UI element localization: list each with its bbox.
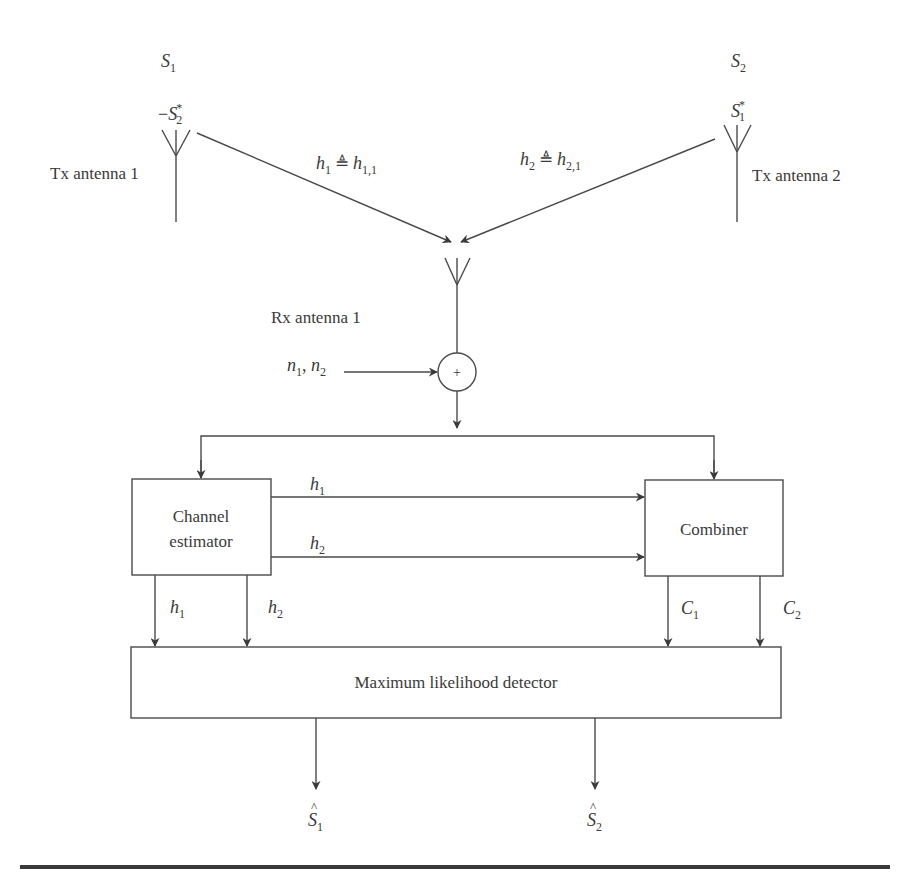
- estimator-to-ml-h2: h2: [247, 575, 283, 646]
- tx2-symbol-t2: S*1: [731, 98, 745, 124]
- svg-text:h2: h2: [268, 597, 283, 621]
- estimator-to-combiner-h1: h1: [271, 474, 644, 498]
- combiner-block: Combiner: [645, 480, 783, 576]
- noise-label: n1, n2: [287, 355, 326, 379]
- combiner-to-ml-c1: C1: [668, 576, 699, 646]
- adder: +: [438, 353, 476, 428]
- combiner-label: Combiner: [680, 520, 748, 539]
- channel-h1-label: h1≜h1,1: [316, 153, 377, 177]
- channel-estimator-label-line2: estimator: [169, 532, 233, 551]
- svg-text:h1: h1: [310, 474, 325, 498]
- antenna-icon: [724, 125, 751, 222]
- tx-antenna-2-label: Tx antenna 2: [752, 166, 841, 185]
- tx1-symbol-t1: S1: [161, 51, 176, 75]
- channel-estimator-block: Channel estimator: [132, 479, 271, 575]
- antenna-icon: [445, 258, 470, 353]
- output-s1-hat: ^ S1: [308, 718, 323, 834]
- combiner-to-ml-c2: C2: [760, 576, 801, 646]
- svg-text:S1: S1: [308, 810, 323, 834]
- channel-path-2: h2≜h2,1: [461, 139, 715, 242]
- noise-input: n1, n2: [287, 355, 437, 379]
- tx-antenna-1: S1 −S*2 Tx antenna 1: [50, 51, 190, 222]
- svg-text:C2: C2: [783, 598, 801, 622]
- svg-text:h1: h1: [170, 597, 185, 621]
- ml-detector-label: Maximum likelihood detector: [354, 673, 557, 692]
- channel-path-1: h1≜h1,1: [197, 133, 451, 242]
- svg-text:C1: C1: [681, 598, 699, 622]
- rx-antenna-1: Rx antenna 1: [271, 258, 470, 353]
- rx-antenna-1-label: Rx antenna 1: [271, 308, 361, 327]
- tx-antenna-2: S2 S*1 Tx antenna 2: [724, 51, 841, 222]
- svg-text:S2: S2: [587, 810, 602, 834]
- tx1-symbol-t2: −S*2: [158, 101, 182, 127]
- alamouti-diagram: S1 −S*2 Tx antenna 1 S2 S*1 Tx antenna 2…: [0, 0, 911, 878]
- antenna-icon: [162, 130, 190, 222]
- tx-antenna-1-label: Tx antenna 1: [50, 164, 139, 183]
- estimator-to-ml-h1: h1: [155, 575, 185, 646]
- channel-h2-label: h2≜h2,1: [520, 149, 581, 173]
- channel-estimator-label-line1: Channel: [173, 507, 230, 526]
- signal-bus: [201, 436, 714, 479]
- svg-text:h2: h2: [310, 533, 325, 557]
- estimator-to-combiner-h2: h2: [271, 533, 644, 557]
- output-s2-hat: ^ S2: [587, 718, 602, 834]
- ml-detector-block: Maximum likelihood detector: [131, 647, 781, 718]
- tx2-symbol-t1: S2: [731, 51, 746, 75]
- plus-icon: +: [453, 365, 461, 380]
